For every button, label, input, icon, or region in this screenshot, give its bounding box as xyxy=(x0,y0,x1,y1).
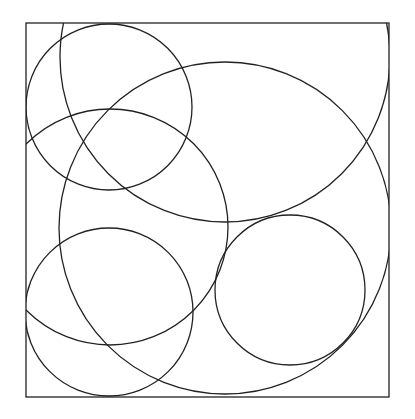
top-left-circle xyxy=(26,24,192,190)
bottom-left-circle xyxy=(25,228,193,396)
circles-group xyxy=(0,0,391,396)
circles-diagram xyxy=(0,0,415,419)
bottom-right-circle xyxy=(215,215,365,365)
top-large-circle xyxy=(60,0,390,222)
